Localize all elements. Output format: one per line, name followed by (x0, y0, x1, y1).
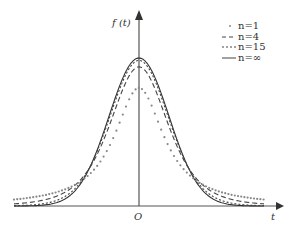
curve-n1-point (99, 160, 101, 162)
curve-n1-point (122, 114, 124, 116)
curve-n1-point (135, 88, 137, 90)
curve-n1-point (192, 177, 194, 179)
curve-n1-point (64, 188, 66, 190)
curve-n1-point (115, 130, 117, 132)
curve-n1-point (167, 143, 169, 145)
curve-n1-point (221, 191, 223, 193)
curve-n1-point (29, 197, 31, 199)
curve-n1-point (157, 121, 159, 123)
curve-n1-point (195, 180, 197, 182)
curve-n1-point (80, 180, 82, 182)
curve-n1-point (240, 196, 242, 198)
curve-n1-point (45, 194, 47, 196)
legend-marker-n1 (229, 25, 231, 27)
curve-n1-point (96, 165, 98, 167)
curve-n1-point (189, 175, 191, 177)
curve-n1-point (160, 129, 162, 131)
curve-n1-point (205, 185, 207, 187)
legend-label-n15: n=15 (238, 41, 266, 52)
curve-n1-point (103, 156, 105, 158)
curve-n1-point (250, 197, 252, 199)
curve-n1-point (32, 196, 34, 198)
curve-n1-point (176, 160, 178, 162)
curve-n1-point (208, 187, 210, 189)
curve-n1-point (13, 199, 15, 201)
curve-n1-point (26, 197, 28, 199)
curve-n1-point (71, 185, 73, 187)
curve-n1-point (243, 196, 245, 198)
curve-n1-point (256, 198, 258, 200)
curve-n1-point (144, 92, 146, 94)
curve-n1-point (179, 164, 181, 166)
legend-label-n1: n=1 (238, 20, 259, 31)
curve-n1-point (83, 178, 85, 180)
curve-n1-point (253, 197, 255, 199)
curve-n1-point (90, 172, 92, 174)
curve-n1-point (215, 189, 217, 191)
curve-n1-point (199, 182, 201, 184)
curve-n1-point (211, 188, 213, 190)
curve-n1-point (170, 149, 172, 151)
curve-n1-point (61, 189, 63, 191)
curve-n1-point (237, 195, 239, 197)
curve-n1-point (109, 144, 111, 146)
curve-n1-point (77, 182, 79, 184)
curve-n1-point (42, 194, 44, 196)
curve-n1-point (74, 184, 76, 186)
curve-n1-point (55, 191, 57, 193)
curve-n1-point (186, 172, 188, 174)
curve-n1-point (128, 98, 130, 100)
curve-n1-point (247, 197, 249, 199)
curve-n1-point (202, 184, 204, 186)
curve-n1-point (67, 187, 69, 189)
curve-n1-point (218, 190, 220, 192)
curve-n1-point (138, 87, 140, 89)
y-axis-label: f (t) (111, 17, 131, 28)
curve-n1-point (51, 192, 53, 194)
curve-n1-point (173, 155, 175, 157)
curve-n1-point (234, 194, 236, 196)
curve-n1-point (93, 169, 95, 171)
legend: n=1 n=4 n=15 n=∞ (222, 20, 266, 63)
curve-n1-point (147, 97, 149, 99)
curve-n1-point (48, 193, 50, 195)
curve-n1-point (39, 195, 41, 197)
curve-n1-point (87, 175, 89, 177)
curve-n1-point (163, 136, 165, 138)
origin-label: O (134, 211, 142, 222)
t-distribution-chart: f (t) O t n=1 n=4 n=15 n=∞ (0, 0, 292, 228)
curve-n1-point (23, 197, 25, 199)
curve-n1-point (263, 198, 265, 200)
x-axis-label: t (271, 211, 276, 222)
y-axis-arrow-icon (135, 10, 143, 20)
curve-n1-point (35, 196, 37, 198)
x-axis-arrow-icon (276, 202, 284, 210)
curve-n1-point (227, 193, 229, 195)
curve-n1-point (19, 198, 21, 200)
curve-n1-point (231, 194, 233, 196)
curve-n1-point (151, 105, 153, 107)
curve-n1-point (183, 168, 185, 170)
curve-n1-point (58, 190, 60, 192)
curve-n1-point (154, 113, 156, 115)
curve-n1-point (224, 192, 226, 194)
curve-n1-point (259, 198, 261, 200)
curve-n1-point (131, 92, 133, 94)
curve-n1-point (125, 106, 127, 108)
legend-label-ninf: n=∞ (238, 52, 261, 63)
curve-n1-point (16, 198, 18, 200)
curve-n1-point (112, 137, 114, 139)
curve-n1-point (119, 122, 121, 124)
curve-n1-point (106, 150, 108, 152)
curve-n1-point (141, 88, 143, 90)
